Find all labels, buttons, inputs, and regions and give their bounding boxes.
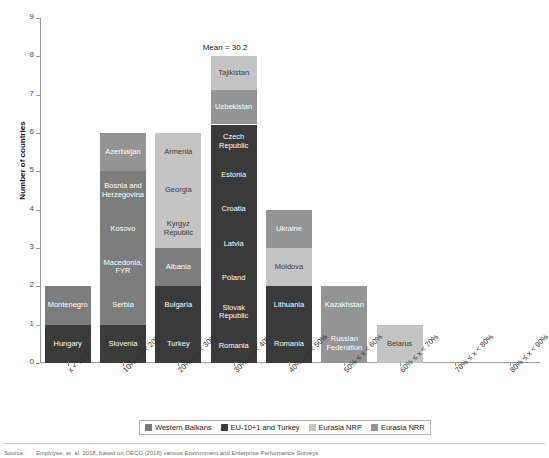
bar-segment[interactable]: Bosnia and Herzegovina: [100, 171, 146, 209]
caption-text: Employee, et. al. 2018, based on OECD (2…: [36, 450, 320, 456]
legend-swatch-icon: [371, 424, 378, 431]
y-tick-mark: [36, 133, 40, 134]
legend-item[interactable]: EU-10+1 and Turkey: [221, 423, 300, 432]
bar-stack[interactable]: TurkeyBulgariaAlbaniaKyrgyz RepublicGeor…: [155, 133, 201, 363]
bar-segment[interactable]: Albania: [155, 248, 201, 286]
caption-divider: [4, 443, 545, 444]
y-tick-mark: [36, 95, 40, 96]
bar-segment[interactable]: Uzbekistan: [211, 90, 257, 124]
legend-label: EU-10+1 and Turkey: [231, 423, 300, 432]
bar-stack[interactable]: SloveniaSerbiaMacedonia, FYRKosovoBosnia…: [100, 133, 146, 363]
legend-label: Eurasia NRP: [319, 423, 362, 432]
legend-label: Eurasia NRR: [381, 423, 425, 432]
y-tick-mark: [36, 171, 40, 172]
y-axis-title: Number of countries: [18, 101, 27, 221]
y-tick-label: 5: [18, 165, 34, 174]
bar-segment[interactable]: Georgia: [155, 171, 201, 209]
bar-segment[interactable]: Serbia: [100, 286, 146, 324]
bar-segment[interactable]: Croatia: [211, 193, 257, 227]
y-tick-mark: [36, 18, 40, 19]
bar-segment[interactable]: Azerbaijan: [100, 133, 146, 171]
y-tick-mark: [36, 210, 40, 211]
legend-item[interactable]: Eurasia NRP: [309, 423, 362, 432]
bar-segment[interactable]: Czech Republic: [211, 125, 257, 159]
bar-segment[interactable]: Armenia: [155, 133, 201, 171]
mean-annotation: Mean = 30.2: [203, 43, 248, 52]
plot-area: Number of countries 0123456789 HungaryMo…: [40, 18, 538, 363]
y-tick-label: 0: [18, 357, 34, 366]
legend-swatch-icon: [221, 424, 228, 431]
y-tick-label: 8: [18, 50, 34, 59]
bar-segment[interactable]: Moldova: [266, 248, 312, 286]
bar-segment[interactable]: Kyrgyz Republic: [155, 210, 201, 248]
legend-swatch-icon: [145, 424, 152, 431]
caption-key: Source:: [4, 450, 36, 456]
bar-stack[interactable]: RomaniaLithuaniaMoldovaUkraine: [266, 210, 312, 363]
bar-segment[interactable]: Bulgaria: [155, 286, 201, 324]
bar-segment[interactable]: Poland: [211, 261, 257, 295]
bar-segment[interactable]: Kazakhstan: [321, 286, 367, 324]
chart-figure: Number of countries 0123456789 HungaryMo…: [0, 0, 549, 458]
y-tick-label: 6: [18, 127, 34, 136]
legend-label: Western Balkans: [155, 423, 212, 432]
legend-item[interactable]: Western Balkans: [145, 423, 212, 432]
bar-segment[interactable]: Macedonia, FYR: [100, 248, 146, 286]
bar-segment[interactable]: Slovak Republic: [211, 295, 257, 329]
y-tick-label: 2: [18, 280, 34, 289]
bar-segment[interactable]: Kosovo: [100, 210, 146, 248]
y-tick-label: 4: [18, 204, 34, 213]
y-tick-mark: [36, 363, 40, 364]
y-tick-label: 1: [18, 319, 34, 328]
bar-segment[interactable]: Lithuania: [266, 286, 312, 324]
bar-segment[interactable]: Estonia: [211, 159, 257, 193]
y-tick-label: 7: [18, 89, 34, 98]
bar-segment[interactable]: Tajikistan: [211, 56, 257, 90]
legend: Western BalkansEU-10+1 and TurkeyEurasia…: [139, 420, 431, 435]
legend-swatch-icon: [309, 424, 316, 431]
y-tick-mark: [36, 248, 40, 249]
y-tick-mark: [36, 56, 40, 57]
y-tick-mark: [36, 286, 40, 287]
bar-segment[interactable]: Ukraine: [266, 210, 312, 248]
y-tick-label: 9: [18, 12, 34, 21]
bar-segment[interactable]: Latvia: [211, 227, 257, 261]
bar-segment[interactable]: Montenegro: [45, 286, 91, 324]
y-tick-mark: [36, 325, 40, 326]
legend-item[interactable]: Eurasia NRR: [371, 423, 425, 432]
y-tick-label: 3: [18, 242, 34, 251]
source-caption: Source:Employee, et. al. 2018, based on …: [4, 450, 320, 456]
bar-stack[interactable]: RomaniaSlovak RepublicPolandLatviaCroati…: [211, 56, 257, 363]
